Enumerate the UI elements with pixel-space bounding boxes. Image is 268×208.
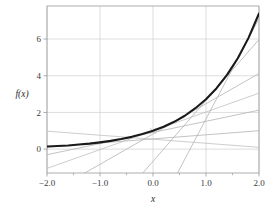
- y-tick-label: 0: [37, 144, 42, 154]
- x-tick-label: 1.0: [200, 178, 212, 188]
- tick-labels: −2.0−1.00.01.02.00246: [37, 34, 266, 188]
- y-axis-title: f(x): [15, 89, 28, 100]
- x-tick-label: −2.0: [39, 178, 56, 188]
- y-tick-label: 6: [37, 34, 42, 44]
- y-tick-label: 4: [37, 71, 42, 81]
- x-tick-label: 0.0: [147, 178, 159, 188]
- x-axis-title: x: [150, 194, 156, 204]
- axis-ticks: [44, 39, 260, 176]
- x-tick-label: 2.0: [253, 178, 265, 188]
- plot-canvas: −2.0−1.00.01.02.00246 x f(x): [0, 0, 268, 208]
- chart-figure: −2.0−1.00.01.02.00246 x f(x): [0, 0, 268, 208]
- y-tick-label: 2: [37, 108, 42, 118]
- x-tick-label: −1.0: [92, 178, 109, 188]
